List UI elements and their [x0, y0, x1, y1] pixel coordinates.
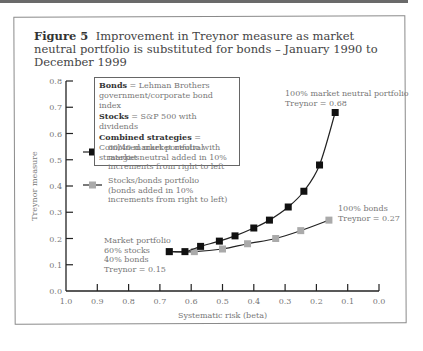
annotation-100-bonds: Treynor = 0.27 — [338, 214, 400, 223]
legend-item-market-neutral: 60/40 market portfolio with market neutr… — [108, 143, 228, 172]
data-point-marker — [300, 188, 307, 195]
x-axis-label: Systematic risk (beta) — [178, 311, 267, 320]
data-point-marker — [181, 248, 188, 255]
annotation-market-portfolio: Market portfolio — [104, 236, 171, 245]
note-bonds: Bonds = Lehman Brothers government/corpo… — [99, 80, 235, 111]
legend-item-stocks-bonds: Stocks/bonds portfolio (bonds added in 1… — [108, 176, 228, 205]
x-tick-label: 0.1 — [341, 297, 354, 306]
x-tick-label: 0.6 — [185, 297, 198, 306]
data-point-marker — [297, 227, 304, 234]
data-point-marker — [325, 217, 332, 224]
annotation-market-portfolio: 40% bonds — [104, 255, 149, 264]
x-tick-label: 0.0 — [373, 297, 386, 306]
annotation-market-portfolio: 60% stocks — [104, 246, 150, 255]
data-point-marker — [216, 238, 223, 245]
data-point-marker — [332, 109, 339, 116]
data-point-marker — [219, 246, 226, 253]
y-tick-label: 0.6 — [49, 130, 62, 139]
x-tick-label: 0.2 — [310, 297, 323, 306]
legend-label: 60/40 market portfolio with market neutr… — [108, 143, 227, 171]
data-point-marker — [250, 225, 257, 232]
y-tick-label: 0.0 — [49, 287, 62, 296]
y-tick-label: 0.3 — [49, 208, 62, 217]
y-tick-label: 0.5 — [49, 156, 62, 165]
annotation-100-market-neutral: Treynor = 0.68 — [285, 99, 347, 108]
x-tick-label: 0.7 — [154, 297, 167, 306]
y-tick-label: 0.4 — [49, 182, 62, 191]
y-tick-label: 0.1 — [49, 261, 62, 270]
y-tick-label: 0.2 — [49, 235, 62, 244]
annotation-100-bonds: 100% bonds — [338, 204, 388, 213]
x-tick-label: 0.9 — [91, 297, 104, 306]
y-axis-label: Treynor measure — [30, 151, 39, 221]
data-point-marker — [244, 240, 251, 247]
legend-marker — [89, 182, 96, 189]
y-tick-label: 0.7 — [49, 103, 62, 112]
data-point-marker — [316, 162, 323, 169]
data-point-marker — [266, 217, 273, 224]
data-point-marker — [197, 243, 204, 250]
note-stocks: Stocks = S&P 500 with dividends — [99, 111, 235, 132]
y-tick-label: 0.8 — [49, 77, 62, 86]
legend-label: Stocks/bonds portfolio (bonds added in 1… — [108, 176, 227, 204]
x-tick-label: 1.0 — [60, 297, 73, 306]
data-point-marker — [285, 204, 292, 211]
data-point-marker — [232, 232, 239, 239]
x-tick-label: 0.3 — [279, 297, 292, 306]
x-tick-label: 0.8 — [122, 297, 135, 306]
annotation-100-market-neutral: 100% market neutral portfolio — [285, 89, 409, 98]
data-point-marker — [166, 248, 173, 255]
annotation-market-portfolio: Treynor = 0.15 — [104, 265, 166, 274]
x-tick-label: 0.4 — [247, 297, 260, 306]
x-tick-label: 0.5 — [216, 297, 229, 306]
data-point-marker — [272, 235, 279, 242]
